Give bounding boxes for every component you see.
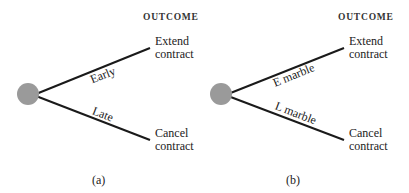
tree-panel-b: OUTCOME Extend contract Cancel contract … bbox=[204, 0, 408, 193]
caption-a: (a) bbox=[92, 173, 105, 188]
outcome-extend: Extend contract bbox=[155, 35, 194, 61]
outcome-header: OUTCOME bbox=[143, 12, 199, 22]
caption-b: (b) bbox=[286, 173, 300, 188]
tree-diagram-b bbox=[204, 0, 409, 193]
outcome-cancel: Cancel contract bbox=[155, 127, 194, 153]
tree-diagram-a bbox=[0, 0, 204, 193]
tree-panel-a: OUTCOME Extend contract Cancel contract … bbox=[0, 0, 204, 193]
outcome-cancel: Cancel contract bbox=[349, 127, 388, 153]
chance-node bbox=[17, 83, 39, 105]
chance-node bbox=[210, 83, 232, 105]
outcome-header: OUTCOME bbox=[338, 12, 394, 22]
outcome-extend: Extend contract bbox=[349, 35, 388, 61]
